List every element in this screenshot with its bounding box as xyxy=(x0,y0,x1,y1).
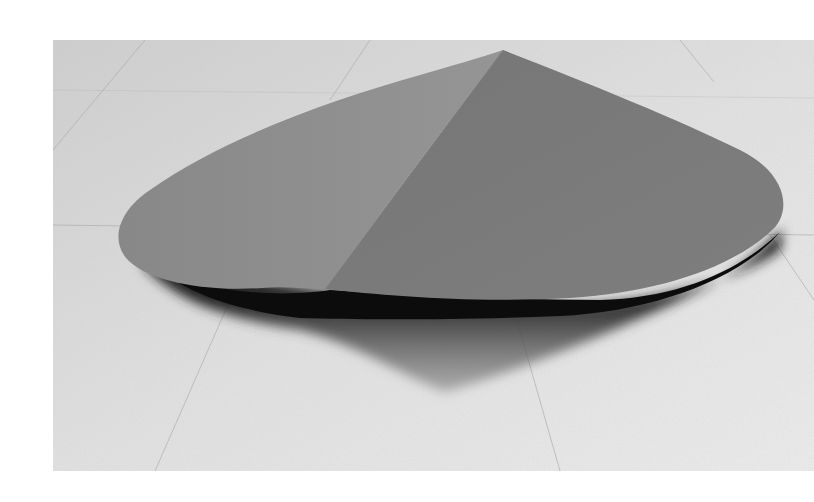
sculpture-photo xyxy=(53,40,814,471)
sculpture-scene xyxy=(53,40,814,471)
